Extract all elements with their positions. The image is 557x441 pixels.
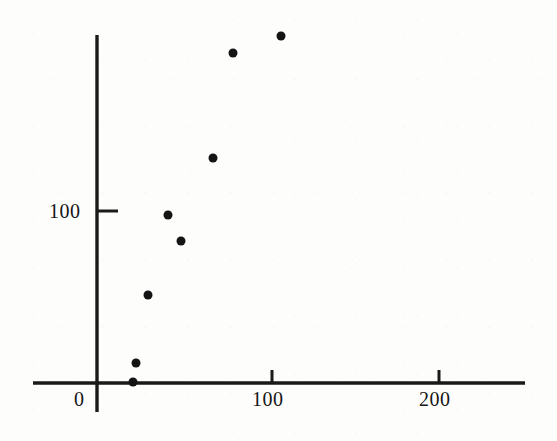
data-points-group	[129, 32, 286, 387]
data-point	[229, 49, 238, 58]
x-tick-label-100: 100	[252, 388, 284, 411]
scatter-plot-figure: 0 100 200 100	[0, 0, 557, 441]
data-point	[209, 154, 218, 163]
y-tick-label-100: 100	[49, 200, 81, 223]
axes-group	[33, 35, 525, 412]
data-point	[144, 291, 153, 300]
data-point	[132, 359, 141, 368]
x-tick-label-200: 200	[419, 388, 451, 411]
x-tick-label-0: 0	[74, 388, 85, 411]
plot-canvas	[0, 0, 557, 441]
data-point	[277, 32, 286, 41]
data-point	[129, 378, 138, 387]
data-point	[164, 211, 173, 220]
data-point	[177, 237, 186, 246]
